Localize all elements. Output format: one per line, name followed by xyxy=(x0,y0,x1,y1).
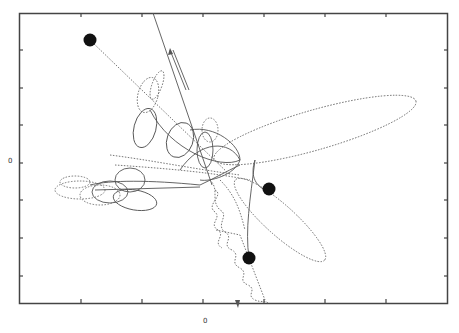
y-axis-zero-label: 0 xyxy=(8,157,12,165)
trajectory-plot xyxy=(0,0,459,333)
marker-lower-center xyxy=(243,252,256,265)
marker-mid-right xyxy=(263,183,276,196)
x-axis-zero-label: 0 xyxy=(203,317,207,325)
axis-ticks xyxy=(19,13,448,303)
dotted-trajectories xyxy=(55,40,421,303)
trajectory-markers xyxy=(84,34,276,265)
plot-frame xyxy=(20,14,448,304)
solid-trajectories xyxy=(90,13,265,258)
marker-start-upper-left xyxy=(84,34,97,47)
arrow-up-icon xyxy=(168,48,173,55)
